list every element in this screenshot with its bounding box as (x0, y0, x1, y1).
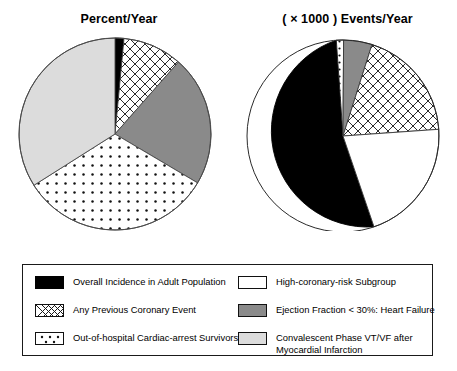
legend-item-label: Out-of-hospital Cardiac-arrest Survivors (73, 331, 238, 344)
pie-chart-events-per-year (238, 26, 457, 231)
legend-item-label: Any Previous Coronary Event (73, 303, 196, 316)
light-gray-swatch-icon (238, 332, 267, 345)
dark-gray-swatch-icon (238, 304, 267, 317)
white-swatch-icon (238, 276, 267, 289)
crosshatch-swatch-icon (35, 304, 64, 317)
legend-item-cardiac-arrest-survivors: Out-of-hospital Cardiac-arrest Survivors (35, 331, 235, 348)
solid-black-swatch-icon (35, 276, 64, 289)
legend-item-label: High-coronary-risk Subgroup (276, 275, 396, 288)
panel-percent-per-year: Percent/Year (0, 0, 238, 231)
charts-container: Percent/Year (0, 0, 457, 262)
legend-item-convalescent-vtvf: Convalescent Phase VT/VF after Myocardia… (238, 331, 433, 355)
panel-title-events-per-year: ( × 1000 ) Events/Year (238, 0, 457, 26)
pie-chart-percent-per-year (0, 26, 238, 231)
legend-box: Overall Incidence in Adult Population An… (22, 264, 433, 356)
legend-item-label: Overall Incidence in Adult Population (73, 275, 226, 288)
legend-item-label: Convalescent Phase VT/VF after Myocardia… (276, 331, 433, 355)
legend-item-label: Ejection Fraction < 30%: Heart Failure (276, 303, 435, 316)
legend-item-overall-incidence: Overall Incidence in Adult Population (35, 275, 235, 292)
legend-item-high-risk-subgroup: High-coronary-risk Subgroup (238, 275, 433, 292)
legend-column-right: High-coronary-risk Subgroup Ejection Fra… (238, 275, 433, 366)
legend-item-ejection-fraction: Ejection Fraction < 30%: Heart Failure (238, 303, 433, 320)
legend-column-left: Overall Incidence in Adult Population An… (35, 275, 235, 359)
dotted-swatch-icon (35, 332, 64, 345)
panel-title-percent-per-year: Percent/Year (0, 0, 238, 26)
panel-events-per-year: ( × 1000 ) Events/Year (238, 0, 457, 231)
legend-item-previous-coronary-event: Any Previous Coronary Event (35, 303, 235, 320)
